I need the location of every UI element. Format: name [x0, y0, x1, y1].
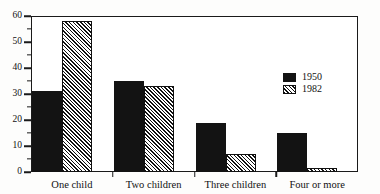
x-category-label-one-child: One child: [51, 178, 92, 191]
bar-1982-three-children: [226, 154, 256, 172]
x-tick: [194, 172, 196, 177]
bar-1950-four-or-more: [277, 133, 307, 172]
x-axis-labels: One childTwo childrenThree childrenFour …: [31, 178, 358, 194]
x-category-label-three-children: Three children: [205, 178, 267, 191]
y-tick-major: [24, 145, 31, 147]
y-tick-label: 30: [13, 89, 23, 99]
legend-item-1950: 1950: [283, 72, 322, 82]
y-tick-major: [24, 93, 31, 95]
bar-chart-figure: 0102030405060 One childTwo childrenThree…: [0, 0, 380, 194]
bar-1950-two-children: [114, 81, 144, 172]
legend-label-1950: 1950: [302, 72, 322, 82]
legend-label-1982: 1982: [302, 84, 322, 94]
bar-1982-two-children: [144, 86, 174, 172]
y-tick-label: 0: [17, 167, 22, 177]
y-tick-label: 10: [13, 141, 23, 151]
x-category-label-two-children: Two children: [126, 178, 182, 191]
bars-layer: [31, 16, 358, 172]
legend-swatch-1982: [283, 85, 296, 94]
y-tick-major: [24, 15, 31, 17]
y-tick-label: 20: [13, 115, 23, 125]
x-tick: [112, 172, 114, 177]
y-axis: 0102030405060: [0, 0, 31, 194]
x-tick: [276, 172, 278, 177]
x-category-label-four-or-more: Four or more: [289, 178, 344, 191]
legend-item-1982: 1982: [283, 84, 322, 94]
bar-1950-three-children: [196, 123, 226, 172]
y-tick-major: [24, 171, 31, 173]
bar-1982-one-child: [62, 21, 92, 172]
chart-legend: 19501982: [283, 72, 322, 94]
y-tick-label: 50: [13, 37, 23, 47]
legend-swatch-1950: [283, 73, 296, 82]
y-tick-major: [24, 67, 31, 69]
y-tick-major: [24, 119, 31, 121]
y-tick-major: [24, 41, 31, 43]
y-tick-label: 60: [13, 11, 23, 21]
y-tick-label: 40: [13, 63, 23, 73]
bar-1950-one-child: [32, 91, 62, 172]
